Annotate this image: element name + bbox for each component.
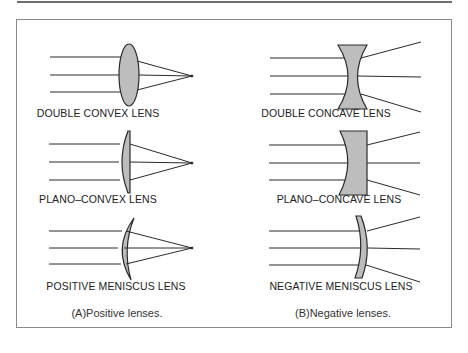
panel-a-caption: (A)Positive lenses. <box>71 307 162 319</box>
incoming-rays <box>50 57 122 92</box>
plano-convex-lens-figure <box>49 131 193 193</box>
plano-convex-lens-shape <box>122 131 130 193</box>
diverging-rays <box>367 132 420 195</box>
plano-concave-lens-figure <box>269 131 420 195</box>
focal-point <box>191 162 193 164</box>
positive-meniscus-label: POSITIVE MENISCUS LENS <box>46 280 185 292</box>
panel-negative-lenses: DOUBLE CONCAVE LENS PLANO–CONCAVE LENS <box>261 42 421 319</box>
negative-meniscus-label: NEGATIVE MENISCUS LENS <box>269 280 412 292</box>
double-convex-lens-shape <box>119 44 139 106</box>
plano-convex-label: PLANO–CONVEX LENS <box>39 193 157 205</box>
diverging-rays <box>366 217 420 282</box>
positive-meniscus-lens-figure <box>49 218 193 280</box>
double-concave-lens-shape <box>338 45 367 109</box>
double-concave-label: DOUBLE CONCAVE LENS <box>261 107 391 119</box>
panel-positive-lenses: DOUBLE CONVEX LENS PLANO–CONVEX LENS <box>37 44 193 319</box>
double-concave-lens-figure <box>270 42 421 112</box>
incoming-rays <box>269 231 364 265</box>
focal-point <box>191 247 193 249</box>
negative-meniscus-lens-shape <box>355 216 367 278</box>
converging-rays <box>130 144 192 180</box>
diverging-rays <box>357 42 421 112</box>
focal-point <box>191 75 193 77</box>
lens-diagram: DOUBLE CONVEX LENS PLANO–CONVEX LENS <box>0 0 468 353</box>
incoming-rays <box>49 144 120 180</box>
positive-meniscus-lens-shape <box>122 218 134 280</box>
incoming-rays <box>269 145 349 180</box>
converging-rays <box>124 231 192 264</box>
double-convex-lens-figure <box>50 44 193 106</box>
incoming-rays <box>49 231 122 264</box>
double-convex-label: DOUBLE CONVEX LENS <box>37 107 160 119</box>
converging-rays <box>137 61 192 90</box>
negative-meniscus-lens-figure <box>269 216 420 282</box>
panel-b-caption: (B)Negative lenses. <box>295 307 391 319</box>
incoming-rays <box>270 58 349 94</box>
plano-concave-label: PLANO–CONCAVE LENS <box>277 193 402 205</box>
